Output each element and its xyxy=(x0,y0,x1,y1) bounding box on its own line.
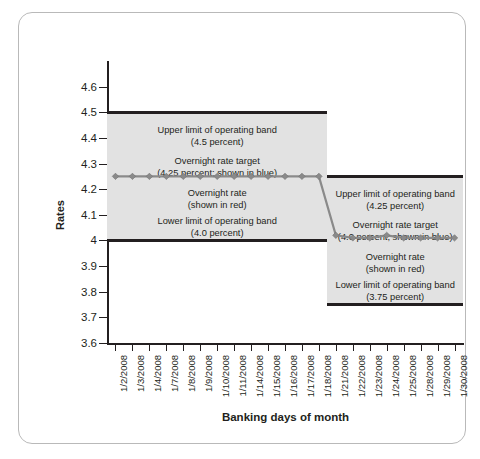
series-marker xyxy=(400,235,406,241)
x-tick-mark xyxy=(166,343,167,351)
y-tick-label: 4 xyxy=(91,234,97,246)
y-tick-mark xyxy=(99,343,107,344)
x-tick-mark xyxy=(353,343,354,351)
y-tick-mark xyxy=(99,215,107,216)
series-marker xyxy=(180,173,186,179)
figure-frame: Upper limit of operating band(4.5 percen… xyxy=(18,12,466,444)
series-marker xyxy=(197,173,203,179)
x-tick-label: 1/9/2008 xyxy=(204,355,214,392)
series-marker xyxy=(417,235,423,241)
x-tick-label: 1/23/2008 xyxy=(374,355,384,397)
y-tick-label: 4.5 xyxy=(81,106,97,118)
x-tick-label: 1/16/2008 xyxy=(289,355,299,397)
y-tick-label: 4.6 xyxy=(81,81,97,93)
x-tick-mark xyxy=(200,343,201,351)
y-tick-mark xyxy=(99,266,107,267)
series-marker xyxy=(299,173,305,179)
y-tick-label: 4.2 xyxy=(81,183,97,195)
x-tick-mark xyxy=(336,343,337,351)
x-tick-label: 1/17/2008 xyxy=(306,355,316,397)
y-tick-mark xyxy=(99,138,107,139)
x-tick-mark xyxy=(421,343,422,351)
y-tick-label: 3.9 xyxy=(81,260,97,272)
x-tick-label: 1/18/2008 xyxy=(323,355,333,397)
series-marker xyxy=(316,173,322,179)
y-tick-mark xyxy=(99,87,107,88)
y-tick-mark xyxy=(99,240,107,241)
series-marker xyxy=(333,232,339,238)
x-tick-label: 1/11/2008 xyxy=(238,355,248,397)
x-tick-mark xyxy=(370,343,371,351)
overnight-rate-series xyxy=(107,61,463,343)
x-tick-mark xyxy=(268,343,269,351)
y-tick-mark xyxy=(99,292,107,293)
y-tick-mark xyxy=(99,164,107,165)
series-marker xyxy=(265,173,271,179)
x-axis-title: Banking days of month xyxy=(107,411,464,423)
series-marker xyxy=(112,173,118,179)
series-line xyxy=(115,176,454,238)
x-tick-label: 1/21/2008 xyxy=(340,355,350,397)
y-tick-mark xyxy=(99,112,107,113)
x-tick-mark xyxy=(149,343,150,351)
y-tick-label: 4.4 xyxy=(81,132,97,144)
y-tick-mark xyxy=(99,189,107,190)
x-tick-mark xyxy=(217,343,218,351)
y-axis-title: Rates xyxy=(54,200,66,230)
series-marker xyxy=(367,235,373,241)
y-tick-label: 4.3 xyxy=(81,158,97,170)
series-marker xyxy=(384,232,390,238)
x-tick-mark xyxy=(455,343,456,351)
y-tick-label: 3.6 xyxy=(81,337,97,349)
series-marker xyxy=(434,235,440,241)
x-tick-label: 1/3/2008 xyxy=(136,355,146,392)
x-tick-label: 1/22/2008 xyxy=(357,355,367,397)
series-marker xyxy=(231,173,237,179)
chart-plot-area: Upper limit of operating band(4.5 percen… xyxy=(107,61,463,343)
series-marker xyxy=(163,173,169,179)
series-marker xyxy=(248,173,254,179)
series-marker xyxy=(214,173,220,179)
series-marker xyxy=(451,235,457,241)
x-tick-mark xyxy=(438,343,439,351)
x-tick-label: 1/30/2008 xyxy=(459,355,469,397)
x-tick-mark xyxy=(285,343,286,351)
series-marker xyxy=(146,173,152,179)
x-tick-label: 1/2/2008 xyxy=(119,355,129,392)
x-tick-mark xyxy=(115,343,116,351)
x-tick-mark xyxy=(404,343,405,351)
x-tick-label: 1/29/2008 xyxy=(442,355,452,397)
x-tick-mark xyxy=(319,343,320,351)
series-marker xyxy=(350,235,356,241)
y-tick-mark xyxy=(99,317,107,318)
x-tick-label: 1/7/2008 xyxy=(170,355,180,392)
x-tick-label: 1/8/2008 xyxy=(187,355,197,392)
x-tick-mark xyxy=(302,343,303,351)
x-tick-label: 1/10/2008 xyxy=(221,355,231,397)
series-marker xyxy=(282,173,288,179)
x-tick-mark xyxy=(251,343,252,351)
x-tick-mark xyxy=(234,343,235,351)
x-tick-mark xyxy=(183,343,184,351)
y-tick-label: 3.8 xyxy=(81,286,97,298)
x-tick-mark xyxy=(132,343,133,351)
x-tick-label: 1/15/2008 xyxy=(272,355,282,397)
y-tick-label: 4.1 xyxy=(81,209,97,221)
x-tick-label: 1/14/2008 xyxy=(255,355,265,397)
x-tick-label: 1/24/2008 xyxy=(391,355,401,397)
x-tick-label: 1/4/2008 xyxy=(153,355,163,392)
y-tick-label: 3.7 xyxy=(81,311,97,323)
x-tick-mark xyxy=(387,343,388,351)
series-marker xyxy=(129,173,135,179)
x-tick-label: 1/25/2008 xyxy=(408,355,418,397)
x-tick-label: 1/28/2008 xyxy=(425,355,435,397)
